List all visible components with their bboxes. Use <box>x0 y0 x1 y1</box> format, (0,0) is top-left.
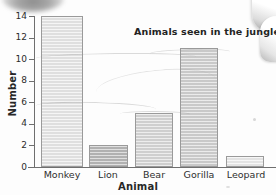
bar-bear <box>135 113 173 167</box>
x-tick-label-leopard: Leopard <box>220 169 272 180</box>
y-tick-label: 14 <box>6 12 27 21</box>
y-tick-label: 12 <box>6 33 27 42</box>
y-tick-mark <box>29 167 35 168</box>
x-axis-title: Animal <box>0 181 276 192</box>
y-tick-label: 0 <box>6 163 27 172</box>
chart-screenshot: Animals seen in the jungle Number Animal… <box>0 0 276 195</box>
y-tick-label: 10 <box>6 55 27 64</box>
x-tick-label-monkey: Monkey <box>34 169 90 180</box>
x-tick-label-gorilla: Gorilla <box>174 169 224 180</box>
bar-gorilla <box>180 48 218 167</box>
y-tick-mark <box>29 145 35 146</box>
x-axis-line <box>28 167 276 168</box>
y-tick-mark <box>29 16 35 17</box>
y-tick-mark <box>29 38 35 39</box>
y-tick-mark <box>29 124 35 125</box>
chart-title: Animals seen in the jungle <box>134 26 276 37</box>
y-tick-label: 4 <box>6 119 27 128</box>
y-tick-label: 8 <box>6 76 27 85</box>
y-tick-label: 2 <box>6 141 27 150</box>
bar-monkey <box>41 16 83 167</box>
x-tick-label-bear: Bear <box>130 169 178 180</box>
bar-chart: Animals seen in the jungle Number Animal… <box>0 0 276 195</box>
y-tick-mark <box>29 81 35 82</box>
bar-leopard <box>226 156 264 167</box>
y-tick-mark <box>29 102 35 103</box>
y-tick-mark <box>29 59 35 60</box>
y-tick-label: 6 <box>6 98 27 107</box>
y-axis-title: Number <box>7 64 18 124</box>
bar-lion <box>89 145 128 167</box>
x-tick-label-lion: Lion <box>84 169 132 180</box>
